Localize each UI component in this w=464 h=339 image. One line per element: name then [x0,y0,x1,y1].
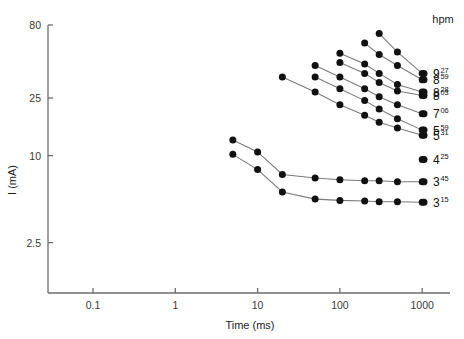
data-point-marker [336,85,343,92]
legend-marker [421,156,428,163]
y-tick-label: 80 [29,19,41,31]
series-line [340,63,422,96]
x-tick-label: 1000 [411,299,435,311]
data-point-marker [376,30,383,37]
x-tick-label: 1 [172,299,178,311]
legend-title: hpm [432,13,453,25]
data-point-marker [312,89,319,96]
data-point-marker [312,196,319,203]
y-tick-label: 2.5 [26,237,41,249]
x-axis-title: Time (ms) [225,319,274,331]
data-point-marker [229,151,236,158]
data-point-marker [376,79,383,86]
data-point-marker [394,115,401,122]
strength-duration-plot: 8025102.50.11101001000 Time (ms)I (mA) h… [0,0,464,339]
data-point-marker [361,60,368,67]
data-point-marker [312,174,319,181]
legend-marker [421,199,428,206]
data-series [312,73,426,133]
series-line [233,154,422,202]
data-point-marker [361,70,368,77]
legend-label-base: 7 [433,107,440,121]
data-series [312,62,426,117]
legend-marker [421,110,428,117]
legend-label-superscript: 15 [441,195,449,204]
data-point-marker [394,125,401,132]
data-point-marker [394,178,401,185]
data-point-marker [336,59,343,66]
y-tick-label: 10 [29,150,41,162]
legend: hpm927859828803706559531425345315 [421,13,454,210]
legend-marker [421,70,428,77]
axis-labels: Time (ms)I (mA) [6,165,275,331]
data-point-marker [254,148,261,155]
series-line [315,65,422,113]
data-point-marker [394,49,401,56]
data-point-marker [336,50,343,57]
axes: 8025102.50.11101001000 [26,19,450,311]
data-series [229,137,425,186]
data-point-marker [376,177,383,184]
data-point-marker [336,73,343,80]
x-tick-label: 0.1 [86,299,101,311]
data-series [361,40,426,84]
legend-label-base: 5 [433,129,440,143]
data-point-marker [279,73,286,80]
data-point-marker [361,198,368,205]
legend-item[interactable]: 425 [421,152,449,167]
data-point-marker [361,40,368,47]
series-line [233,140,422,182]
legend-label-superscript: 31 [441,128,449,137]
chart-figure: 8025102.50.11101001000 Time (ms)I (mA) h… [0,0,464,339]
data-point-marker [394,81,401,88]
data-point-marker [336,197,343,204]
data-point-marker [376,70,383,77]
legend-item[interactable]: 706 [421,106,449,121]
legend-item[interactable]: 315 [421,195,449,210]
legend-marker [421,178,428,185]
legend-label-superscript: 59 [441,72,449,81]
data-series [376,30,426,77]
data-point-marker [361,112,368,119]
data-point-marker [229,137,236,144]
data-point-marker [376,119,383,126]
legend-label-superscript: 45 [441,174,449,183]
data-point-marker [376,105,383,112]
data-point-marker [361,85,368,92]
y-tick-label: 25 [29,92,41,104]
legend-marker [421,92,428,99]
data-point-marker [376,51,383,58]
x-tick-label: 100 [331,299,349,311]
data-point-marker [312,73,319,80]
data-point-marker [336,176,343,183]
legend-label-base: 3 [433,196,440,210]
data-point-marker [336,101,343,108]
legend-marker [421,132,428,139]
data-point-marker [312,62,319,69]
series-line [315,77,422,130]
data-point-marker [394,62,401,69]
legend-label-superscript: 06 [441,106,449,115]
legend-label-superscript: 25 [441,152,449,161]
legend-label-base: 3 [433,175,440,189]
legend-item[interactable]: 345 [421,174,449,189]
legend-label-superscript: 03 [441,88,449,97]
legend-marker [421,76,428,83]
data-point-marker [254,166,261,173]
legend-label-base: 4 [433,153,440,167]
data-point-marker [361,177,368,184]
y-axis-title: I (mA) [6,165,18,195]
data-point-marker [279,171,286,178]
data-point-marker [394,198,401,205]
series-container [229,30,425,206]
data-point-marker [376,93,383,100]
data-point-marker [361,97,368,104]
data-series [229,151,425,206]
data-point-marker [394,87,401,94]
legend-label-base: 8 [433,89,440,103]
x-tick-label: 10 [252,299,264,311]
data-point-marker [279,189,286,196]
data-point-marker [376,198,383,205]
data-point-marker [394,101,401,108]
